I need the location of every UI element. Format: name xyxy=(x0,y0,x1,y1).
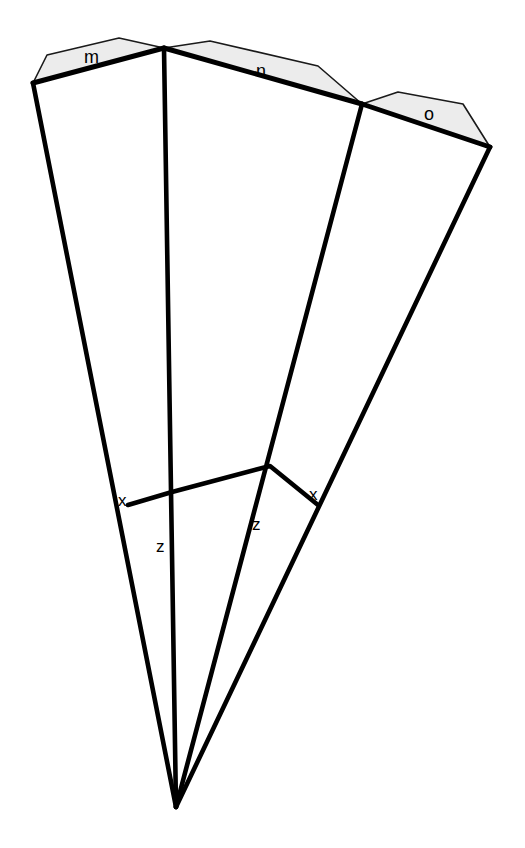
angle-label-x-left: x xyxy=(118,492,127,509)
angle-label-x-right: x xyxy=(309,486,318,503)
shaded-band-group xyxy=(33,38,490,147)
ray-2-center xyxy=(164,48,176,807)
geometry-canvas xyxy=(0,0,525,848)
angle-label-z-right: z xyxy=(252,516,261,533)
arc-label-m: m xyxy=(84,48,99,66)
arc-label-n: n xyxy=(256,62,266,80)
ray-1-left-outer xyxy=(33,83,176,807)
angle-label-z-left: z xyxy=(156,538,165,555)
ray-3-inner-right xyxy=(176,104,362,807)
inner-chord-path xyxy=(128,466,318,505)
geometry-figure: m n o x z z x xyxy=(0,0,525,848)
arc-label-o: o xyxy=(424,105,434,123)
ray-group xyxy=(33,48,490,807)
